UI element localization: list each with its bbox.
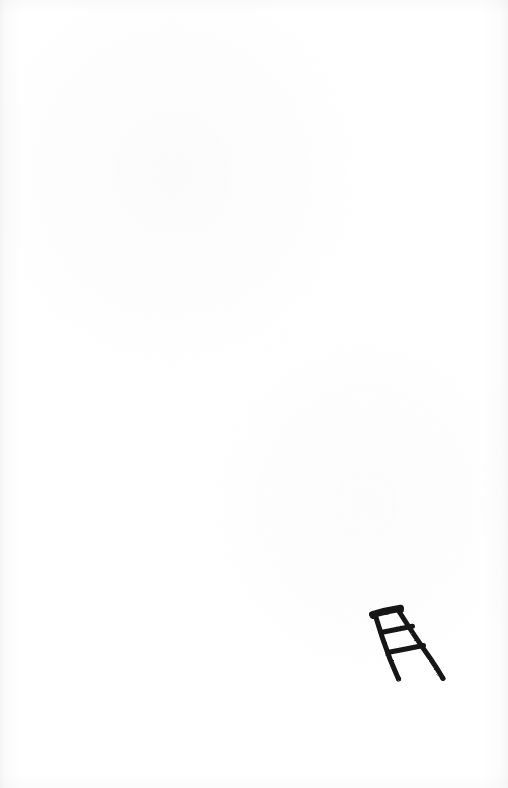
ink-blob-left-foot [396, 677, 401, 682]
scanned-page [0, 0, 508, 788]
ladder-rung-upper [381, 626, 413, 632]
ladder-left-rail [376, 616, 399, 679]
ladder-rung-lower [388, 646, 424, 653]
ink-blob-top-rail-middle [382, 609, 390, 615]
ink-blob-right-foot [440, 676, 445, 680]
ink-blobs [370, 606, 445, 681]
ladder-sketch [0, 0, 508, 788]
ink-blob-top-left-joint [370, 611, 379, 619]
ladder-drawing-svg [0, 0, 508, 788]
ink-blob-top-right-joint [396, 606, 404, 613]
